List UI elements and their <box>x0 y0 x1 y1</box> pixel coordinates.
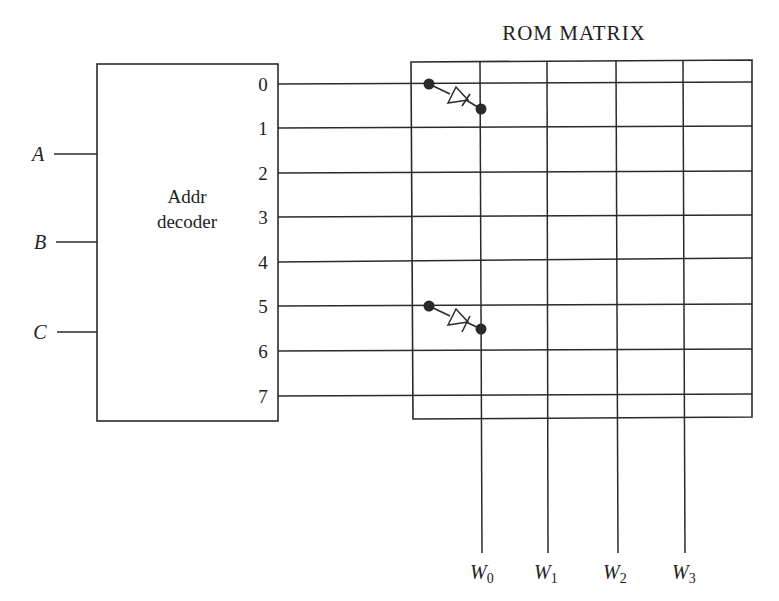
output-label-1: 1 <box>258 118 268 139</box>
diagram-title: ROM MATRIX <box>502 21 646 45</box>
rom-diagram: ROM MATRIX Addr decoder A B C 0 1 2 3 4 … <box>0 0 779 601</box>
output-label-6: 6 <box>258 341 268 362</box>
bit-label-w3: W3 <box>672 561 696 586</box>
word-line-2 <box>278 171 752 173</box>
input-label-a: A <box>30 143 45 165</box>
bit-line-w0 <box>480 62 482 553</box>
word-line-7 <box>278 394 752 396</box>
address-decoder-box <box>97 64 278 421</box>
output-label-0: 0 <box>258 74 268 95</box>
word-line-6 <box>278 349 752 351</box>
diode-icon <box>448 309 468 325</box>
input-label-b: B <box>34 231 46 253</box>
output-label-3: 3 <box>258 207 268 228</box>
word-line-5 <box>278 304 752 306</box>
output-label-7: 7 <box>258 386 268 407</box>
decoder-label-line2: decoder <box>157 211 218 232</box>
bit-label-w1: W1 <box>534 561 558 586</box>
word-line-4 <box>278 258 752 262</box>
output-label-5: 5 <box>258 296 268 317</box>
bit-lines <box>480 61 685 553</box>
bit-label-w0: W0 <box>470 561 494 586</box>
decoder-outputs: 0 1 2 3 4 5 6 7 <box>258 74 752 407</box>
word-line-0 <box>278 82 752 84</box>
decoder-label-line1: Addr <box>167 186 207 207</box>
bit-label-w2: W2 <box>603 561 627 586</box>
input-label-c: C <box>33 321 47 343</box>
output-label-4: 4 <box>258 252 268 273</box>
bit-line-w2 <box>616 61 618 553</box>
bit-line-w1 <box>547 61 548 553</box>
bit-line-w3 <box>683 61 685 553</box>
rom-matrix-box <box>411 60 752 419</box>
decoder-inputs: A B C <box>30 143 97 343</box>
word-line-3 <box>278 215 752 217</box>
word-line-1 <box>278 126 752 128</box>
bit-labels: W0 W1 W2 W3 <box>470 561 696 586</box>
output-label-2: 2 <box>258 163 268 184</box>
